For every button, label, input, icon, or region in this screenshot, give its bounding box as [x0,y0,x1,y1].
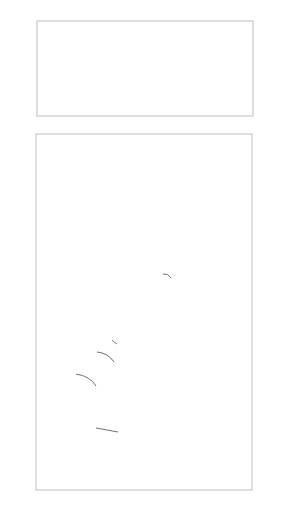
water-budget-chart [36,134,252,490]
water-use-pointer [76,374,96,386]
temperature-chart [37,21,253,116]
water-need-pointer [112,340,117,344]
climate-chart-figure [0,0,291,512]
storage-withdrawal-pointer [96,428,118,432]
precipitation-pointer [163,274,171,278]
shortage-pointer [97,352,114,362]
temperature-plot-frame [37,21,253,116]
water-budget-plot-frame [36,134,252,490]
